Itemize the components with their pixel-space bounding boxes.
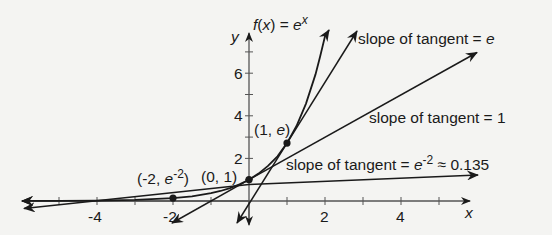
point-label-0-1: (0, 1): [201, 168, 237, 185]
point-minus2-e-minus2: [169, 195, 176, 202]
tick-label-y-4: 4: [234, 107, 243, 124]
tick-label-x-2: 2: [320, 208, 329, 225]
tick-label-y-6: 6: [234, 65, 243, 82]
tick-label-y-2: 2: [234, 150, 243, 167]
tick-label-x-minus4: -4: [88, 208, 102, 225]
slope-e-minus-2-label: slope of tangent = e-2 ≈ 0.135: [286, 153, 489, 173]
exponential-tangent-chart: -4 -2 2 4 2 4 6 x y f(x) = ex slope of t…: [0, 0, 552, 235]
slope-e-label: slope of tangent = e: [358, 30, 495, 47]
tick-label-x-minus2: -2: [163, 208, 177, 225]
slope-1-label: slope of tangent = 1: [369, 109, 506, 126]
axis-label-x: x: [464, 204, 474, 221]
point-1-e: [283, 140, 290, 147]
point-0-1: [245, 176, 252, 183]
tick-label-x-4: 4: [396, 208, 405, 225]
function-label: f(x) = ex: [253, 13, 309, 33]
tangent-line-slope-e-minus-2: [249, 175, 478, 185]
point-label-1-e: (1, e): [254, 121, 290, 138]
y-axis: [245, 33, 253, 225]
point-label-minus2-e-minus2: (-2, e-2): [137, 167, 189, 187]
axis-label-y: y: [230, 28, 240, 45]
